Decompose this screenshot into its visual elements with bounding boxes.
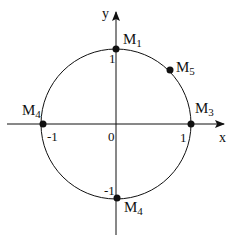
point-m4-left (40, 121, 47, 128)
label-m1: M1 (123, 31, 142, 49)
tick-y-neg: -1 (104, 183, 115, 198)
tick-x-neg: -1 (47, 129, 58, 144)
point-m4-bottom (114, 195, 121, 202)
label-m4-bottom: M4 (124, 199, 143, 217)
label-m4-left: M4 (22, 102, 41, 120)
point-m1 (113, 46, 120, 53)
label-m5: M5 (176, 59, 195, 77)
tick-x-pos: 1 (180, 130, 187, 145)
origin-label: 0 (108, 129, 115, 144)
point-m3 (188, 121, 195, 128)
tick-y-pos: 1 (109, 51, 116, 66)
label-m3: M3 (195, 100, 214, 118)
point-m5 (167, 67, 174, 74)
x-axis-label: x (219, 130, 226, 145)
unit-circle-diagram: x y 0 1 -1 1 -1 M1 M5 M3 M4 M4 (0, 0, 231, 241)
y-axis-label: y (102, 6, 109, 21)
